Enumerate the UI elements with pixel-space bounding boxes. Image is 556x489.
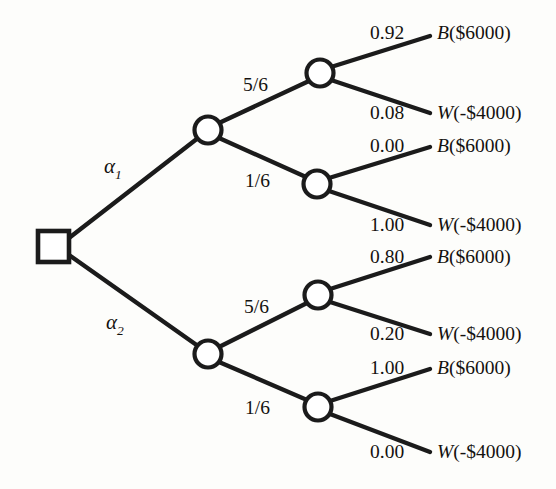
decision-tree-diagram: α1 α2 5/6 1/6 5/6 1/6 0.92 0.08 0.00 1.0… [0, 0, 556, 489]
branch-label-a1-bottom: 1/6 [245, 170, 270, 191]
branch-label-a1-top: 5/6 [243, 74, 268, 95]
edge-root-to-c2 [69, 255, 198, 346]
action-alpha1-subscript: 1 [115, 167, 122, 182]
outcome-label-o8: W(-$4000) [437, 441, 521, 463]
outcome-o8-payoff: (-$4000) [453, 441, 521, 463]
chance-node-c22[interactable] [305, 394, 332, 421]
action-label-alpha1: α1 [104, 154, 122, 182]
outcome-label-o2: W(-$4000) [437, 102, 521, 124]
outcome-o5-symbol: B [437, 246, 449, 267]
probability-label-o5: 0.80 [370, 246, 404, 267]
outcome-o4-payoff: (-$4000) [453, 214, 521, 236]
outcome-label-o3: B($6000) [437, 135, 511, 157]
chance-node-c11[interactable] [307, 60, 334, 87]
chance-node-c1[interactable] [195, 117, 222, 144]
edge-root-to-c1 [69, 138, 198, 238]
edge-c2-to-c22 [219, 362, 307, 400]
branch-label-a2-top: 5/6 [244, 296, 269, 317]
probability-label-o4: 1.00 [370, 214, 404, 235]
decision-node-root[interactable] [38, 231, 69, 262]
outcome-label-o6: W(-$4000) [437, 323, 521, 345]
outcome-label-o7: B($6000) [437, 357, 511, 379]
outcome-o7-payoff: ($6000) [449, 357, 511, 379]
outcome-o2-payoff: (-$4000) [453, 102, 521, 124]
probability-label-o1: 0.92 [370, 22, 404, 43]
outcome-o5-payoff: ($6000) [449, 246, 511, 268]
action-label-alpha2: α2 [106, 310, 124, 338]
outcome-o6-payoff: (-$4000) [453, 323, 521, 345]
outcome-o1-payoff: ($6000) [449, 22, 511, 44]
outcome-label-o4: W(-$4000) [437, 214, 521, 236]
outcome-label-o5: B($6000) [437, 246, 511, 268]
probability-label-o3: 0.00 [370, 135, 404, 156]
chance-node-c21[interactable] [305, 282, 332, 309]
branch-label-a2-bottom: 1/6 [245, 397, 270, 418]
probability-label-o8: 0.00 [370, 441, 404, 462]
probability-label-o7: 1.00 [370, 357, 404, 378]
probability-label-o2: 0.08 [370, 102, 404, 123]
probability-label-o6: 0.20 [370, 323, 404, 344]
outcome-o7-symbol: B [437, 357, 449, 378]
outcome-o3-symbol: B [437, 135, 449, 156]
tree-canvas: α1 α2 5/6 1/6 5/6 1/6 0.92 0.08 0.00 1.0… [0, 0, 556, 489]
outcome-o1-symbol: B [437, 22, 449, 43]
outcome-o3-payoff: ($6000) [449, 135, 511, 157]
outcome-label-o1: B($6000) [437, 22, 511, 44]
chance-node-c2[interactable] [195, 341, 222, 368]
chance-node-c12[interactable] [304, 171, 331, 198]
action-alpha2-subscript: 2 [117, 323, 124, 338]
